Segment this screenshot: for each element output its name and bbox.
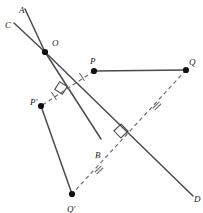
ray-OA <box>25 9 45 52</box>
point-label-Q: Q <box>189 58 196 67</box>
point-label-Qp: Q' <box>67 205 75 213</box>
segment-Q-Qp <box>72 70 186 194</box>
point-label-O: O <box>52 39 59 48</box>
line-OD <box>45 52 193 196</box>
right-angle-marks-group <box>55 82 128 138</box>
point-dot-Qp <box>69 191 75 197</box>
point-label-Pp: P' <box>30 98 37 107</box>
segment-P-Pp <box>41 71 94 106</box>
point-dot-P <box>91 68 97 74</box>
solid-lines-group <box>14 9 193 196</box>
point-dot-Q <box>183 67 189 73</box>
segment-PpQp <box>41 106 72 194</box>
point-dot-Pp <box>38 103 44 109</box>
geometry-diagram-canvas: OPQP'Q'ACBD <box>0 0 203 213</box>
tick-Q-side <box>153 102 161 110</box>
segment-PQ <box>94 70 186 71</box>
point-label-B: B <box>95 151 101 160</box>
point-label-C: C <box>5 21 11 30</box>
point-label-A: A <box>19 6 25 15</box>
point-label-D: D <box>194 195 201 204</box>
point-dot-O <box>42 49 48 55</box>
point-label-P: P <box>90 57 96 66</box>
dashed-lines-group <box>41 70 186 194</box>
ray-OC <box>14 23 45 52</box>
